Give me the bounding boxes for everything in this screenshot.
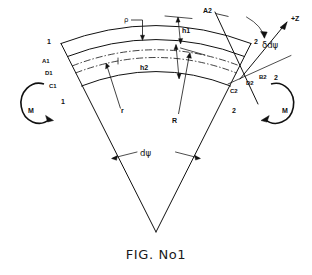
label-moment-left: M [28, 107, 34, 114]
label-radius-R: R [172, 117, 177, 124]
label-right-inner-corner: 2 [232, 107, 236, 114]
label-sector-angle-d-psi: dψ [140, 148, 151, 158]
a2-leader-line [216, 14, 229, 17]
arc-upper-intermediate [68, 40, 245, 57]
r-leader-line [107, 65, 121, 109]
h2-arrowhead-bottom [177, 73, 181, 79]
figure-caption: FIG. No1 [126, 247, 186, 262]
label-rho: ρ [124, 16, 129, 24]
label-right-B2: B2 [259, 74, 267, 80]
left-moment-arc [21, 83, 50, 123]
rotation-arrowhead [261, 32, 268, 38]
technical-drawing-canvas: +Z δdψ A2 ρ h1 [0, 0, 312, 275]
label-top-section-a2: A2 [203, 7, 212, 14]
sector-angle-dimension: dψ [112, 148, 201, 160]
arc-neutral-axis-upper [72, 50, 240, 66]
h2-arrowhead-top [174, 45, 178, 50]
R-leader-line [179, 54, 190, 114]
arc-inner-edge [82, 72, 231, 87]
label-right-C2: C2 [230, 88, 238, 94]
rotated-section-line [215, 12, 291, 104]
right-moment-arc [265, 83, 294, 123]
label-left-outer-corner: 1 [47, 38, 51, 45]
sector-arcs [61, 26, 251, 87]
left-moment-group: M [21, 83, 54, 123]
label-left-inner-corner: 1 [61, 98, 65, 105]
d-psi-left-arrowhead [112, 156, 118, 161]
R-radius-leader-group: R [172, 53, 191, 125]
label-left-A1: A1 [42, 58, 50, 64]
rho-leader-group: ρ [124, 16, 145, 41]
label-axis-z: +Z [291, 15, 300, 22]
rotation-angle-indicator: δdψ [247, 17, 279, 50]
right-moment-group: M [261, 83, 294, 123]
arc-neutral-axis-lower [76, 58, 237, 74]
label-moment-right: M [282, 107, 288, 114]
label-right-corner-2: 2 [274, 74, 278, 81]
label-right-outer-corner-upper: 2 [254, 38, 258, 45]
label-radius-r: r [121, 107, 124, 114]
figure-container: +Z δdψ A2 ρ h1 [0, 0, 312, 275]
a2-leader-group: A2 [203, 7, 229, 17]
label-height-h2: h2 [140, 64, 148, 71]
rotation-arc [247, 17, 265, 38]
label-right-D2: D2 [246, 80, 254, 86]
left-end-labels: 1 A1 D1 C1 1 [42, 38, 65, 105]
label-rotation-delta-d-psi: δdψ [262, 40, 279, 50]
h1-arrowhead-top [176, 17, 180, 22]
d-psi-right-arrowhead [195, 155, 201, 160]
label-left-D1: D1 [45, 70, 53, 76]
label-left-C1: C1 [49, 83, 57, 89]
R-leader-arrowhead [187, 53, 192, 59]
r-radius-leader-group: r [106, 63, 124, 114]
label-height-h1: h1 [182, 27, 190, 34]
